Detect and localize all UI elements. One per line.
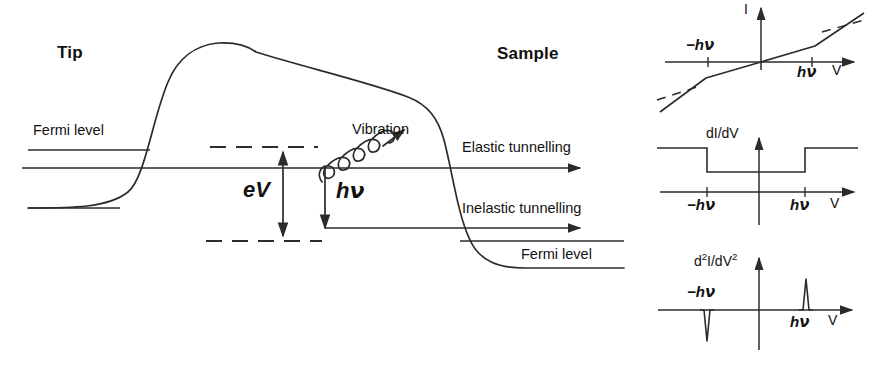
d2idv2-plot: [658, 258, 852, 350]
iv-neg-h: −h: [686, 36, 704, 53]
d2idv2-tick-label-pos-hv: hν: [790, 314, 809, 330]
iv-tangent-dashed-left: [657, 87, 697, 100]
photon-energy-nu: ν: [349, 178, 364, 203]
bias-energy-label: eV: [243, 179, 270, 201]
d2idv2-positive-peak: [799, 279, 813, 310]
didv-step-trace: [657, 148, 858, 172]
didv-tick-label-neg-hv: −hν: [687, 197, 715, 213]
didv-neg-h: −h: [687, 196, 705, 213]
iv-tick-label-neg-hv: −hν: [686, 37, 714, 53]
didv-y-axis-label: dI/dV: [706, 126, 739, 140]
photon-energy-h: h: [336, 178, 349, 203]
iv-x-axis-label: V: [832, 63, 841, 77]
d2idv2-pos-h: h: [790, 313, 799, 330]
tunnel-barrier-profile: [28, 43, 624, 268]
iv-tangent-dashed-right: [822, 20, 864, 32]
d2idv2-d: d: [694, 253, 702, 269]
didv-pos-h: h: [790, 196, 799, 213]
sample-fermi-level-label: Fermi level: [521, 247, 592, 262]
sample-electrode-label: Sample: [497, 45, 559, 62]
iv-plot: [657, 8, 864, 112]
iv-pos-h: h: [797, 63, 806, 80]
didv-x-axis-label: V: [830, 196, 839, 210]
d2idv2-negative-peak: [700, 310, 714, 341]
iv-tick-label-pos-hv: hν: [797, 64, 816, 80]
d2idv2-mid: I/dV: [707, 253, 732, 269]
iets-figure: Tip Sample Fermi level Fermi level eV hν…: [0, 0, 887, 366]
d2idv2-tick-label-neg-hv: −hν: [687, 284, 715, 300]
d2idv2-pos-nu: ν: [799, 313, 809, 331]
d2idv2-x-axis-label: V: [828, 313, 837, 327]
didv-pos-nu: ν: [799, 196, 809, 214]
vibration-coil-arrow: [319, 130, 404, 182]
photon-energy-label: hν: [336, 180, 364, 202]
didv-tick-label-pos-hv: hν: [790, 197, 809, 213]
figure-vector-layer: [0, 0, 887, 366]
d2idv2-sup-2: 2: [732, 251, 737, 262]
tip-electrode-label: Tip: [57, 44, 83, 61]
d2idv2-neg-h: −h: [687, 283, 705, 300]
didv-neg-nu: ν: [705, 196, 715, 214]
vibration-label: Vibration: [352, 122, 409, 137]
tip-fermi-level-label: Fermi level: [33, 123, 104, 138]
d2idv2-y-axis-label: d2I/dV2: [694, 252, 737, 268]
iv-neg-nu: ν: [704, 36, 714, 54]
inelastic-tunnelling-label: Inelastic tunnelling: [462, 201, 581, 216]
d2idv2-neg-nu: ν: [705, 283, 715, 301]
iv-pos-nu: ν: [806, 63, 816, 81]
iv-y-axis-label: I: [744, 2, 748, 16]
elastic-tunnelling-label: Elastic tunnelling: [462, 140, 571, 155]
